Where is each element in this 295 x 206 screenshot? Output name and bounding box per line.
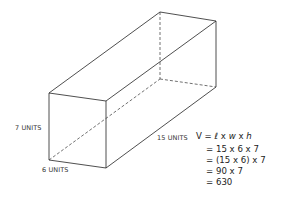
- formula-times-2: x: [238, 131, 243, 141]
- volume-formula: V = ℓ x w x h: [196, 131, 252, 141]
- edge-bottom-right: [106, 87, 216, 168]
- edge-top-right: [106, 21, 216, 101]
- formula-lhs: V =: [196, 131, 212, 141]
- formula-times-1: x: [221, 131, 226, 141]
- edge-top-left: [49, 12, 160, 93]
- hidden-edge-back-bottom: [160, 79, 216, 87]
- calc-step: = 15 x 6 x 7: [206, 144, 259, 154]
- hidden-edge-bottom-left: [49, 79, 160, 160]
- calc-step: = 90 x 7: [206, 166, 243, 176]
- edge-top-back: [160, 12, 216, 21]
- edge-front-top: [49, 93, 106, 101]
- width-label: 6 UNITS: [42, 166, 69, 174]
- calc-step-result: = 630: [206, 177, 232, 187]
- rectangular-prism: [0, 0, 295, 206]
- length-label: 15 UNITS: [157, 134, 188, 142]
- height-label: 7 UNITS: [15, 124, 42, 132]
- formula-width-symbol: w: [229, 131, 236, 141]
- formula-length-symbol: ℓ: [215, 131, 219, 141]
- formula-height-symbol: h: [246, 131, 251, 141]
- calc-step: = (15 x 6) x 7: [206, 155, 266, 165]
